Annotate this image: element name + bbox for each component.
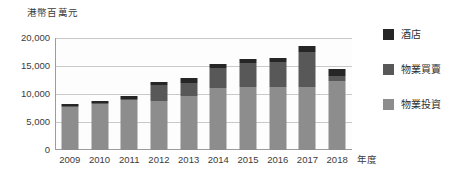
x-tick-label: 2017 <box>297 154 318 166</box>
bar-stack[interactable] <box>210 64 227 150</box>
y-tick-label: 0 <box>2 145 50 155</box>
x-tick-label: 2011 <box>119 154 139 166</box>
bar-stack[interactable] <box>299 46 316 150</box>
bar-slot <box>204 38 234 150</box>
x-tick-label: 2012 <box>148 154 169 166</box>
x-tick-label: 2010 <box>89 154 110 166</box>
legend-color-swatch <box>383 64 394 75</box>
y-tick-label: 15,000 <box>2 61 50 71</box>
bar-segment <box>150 85 167 101</box>
bar-slot <box>293 38 323 150</box>
bar-slot <box>263 38 293 150</box>
bar-stack[interactable] <box>180 78 197 150</box>
bar-slot <box>233 38 263 150</box>
legend-label: 物業買賣 <box>401 64 441 75</box>
bar-slot <box>322 38 352 150</box>
bar-segment <box>269 62 286 87</box>
bar-segment <box>150 101 167 150</box>
x-axis-title: 年度 <box>357 154 377 166</box>
bar-segment <box>240 63 257 88</box>
bar-slot <box>114 38 144 150</box>
legend-item[interactable]: 物業投資 <box>383 99 469 110</box>
bar-stack[interactable] <box>61 104 78 150</box>
bar-slot <box>144 38 174 150</box>
x-tick-label: 2009 <box>59 154 80 166</box>
bar-stack[interactable] <box>269 58 286 150</box>
x-tick-label: 2015 <box>237 154 258 166</box>
x-tick-label: 2018 <box>327 154 348 166</box>
bar-slot <box>85 38 115 150</box>
bar-segment <box>210 88 227 150</box>
y-tick-label: 10,000 <box>2 89 50 99</box>
stacked-bar-chart: 港幣百萬元 05,00010,00015,00020,000 200920102… <box>0 0 469 189</box>
x-tick-label: 2013 <box>178 154 199 166</box>
bar-stack[interactable] <box>91 101 108 150</box>
bar-segment <box>180 83 197 96</box>
bar-slot <box>174 38 204 150</box>
bar-segment <box>210 68 227 88</box>
legend-item[interactable]: 酒店 <box>383 29 469 40</box>
bar-slot <box>55 38 85 150</box>
bar-segment <box>240 87 257 150</box>
bar-stack[interactable] <box>329 69 346 150</box>
chart-legend: 酒店物業買賣物業投資 <box>383 29 469 134</box>
legend-label: 物業投資 <box>401 99 441 110</box>
bar-segment <box>329 69 346 76</box>
x-tick-label: 2014 <box>208 154 229 166</box>
bar-segment <box>91 104 108 150</box>
x-tick-label: 2016 <box>267 154 288 166</box>
bar-segment <box>329 81 346 150</box>
bar-segment <box>269 87 286 150</box>
y-axis-tick-labels: 05,00010,00015,00020,000 <box>0 38 50 150</box>
bar-segment <box>299 52 316 87</box>
bar-stack[interactable] <box>121 96 138 150</box>
legend-color-swatch <box>383 99 394 110</box>
legend-color-swatch <box>383 29 394 40</box>
bar-stack[interactable] <box>240 59 257 150</box>
y-axis-unit-title: 港幣百萬元 <box>27 7 78 19</box>
y-tick-label: 20,000 <box>2 33 50 43</box>
bar-segment <box>61 107 78 150</box>
y-tick-label: 5,000 <box>2 117 50 127</box>
legend-label: 酒店 <box>401 29 421 40</box>
bar-stack[interactable] <box>150 82 167 150</box>
legend-item[interactable]: 物業買賣 <box>383 64 469 75</box>
bar-segment <box>299 87 316 150</box>
bars-layer <box>55 38 352 150</box>
bar-segment <box>121 100 138 150</box>
bar-segment <box>180 96 197 150</box>
x-axis-tick-labels: 2009201020112012201320142015201620172018 <box>55 154 352 170</box>
